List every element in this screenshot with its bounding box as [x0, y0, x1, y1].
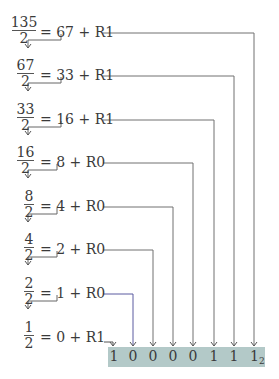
- base-subscript: 2: [259, 356, 265, 366]
- fraction-denominator: 2: [25, 293, 34, 306]
- fraction-numerator: 16: [17, 146, 35, 159]
- quotient-remainder: = 8 + R0: [40, 155, 105, 169]
- quotient-remainder: = 1 + R0: [40, 286, 105, 300]
- fraction-denominator: 2: [21, 75, 30, 88]
- result-bit: 1: [107, 349, 121, 363]
- fraction-numerator: 33: [17, 103, 35, 116]
- result-bit: 0: [166, 349, 180, 363]
- bit-value: 1: [230, 348, 239, 364]
- result-bit: 0: [126, 349, 140, 363]
- quotient-remainder: = 33 + R1: [40, 68, 114, 82]
- fraction-denominator: 2: [21, 162, 30, 175]
- fraction: 1352: [12, 16, 36, 45]
- fraction-denominator: 2: [25, 249, 34, 262]
- fraction: 332: [17, 103, 34, 132]
- fraction-numerator: 67: [17, 59, 35, 72]
- quotient-remainder: = 16 + R1: [40, 112, 114, 126]
- result-bit: 12: [250, 349, 270, 368]
- bit-value: 1: [210, 348, 219, 364]
- result-bit: 1: [227, 349, 241, 363]
- fraction: 42: [24, 233, 34, 262]
- bit-value: 0: [189, 348, 198, 364]
- quotient-remainder: = 4 + R0: [40, 199, 105, 213]
- quotient-remainder: = 0 + R1: [40, 330, 105, 344]
- fraction-denominator: 2: [25, 206, 34, 219]
- fraction: 672: [17, 59, 34, 88]
- quotient-remainder: = 67 + R1: [40, 25, 114, 39]
- bit-value: 1: [110, 348, 119, 364]
- fraction: 22: [24, 277, 34, 306]
- bit-value: 0: [169, 348, 178, 364]
- fraction-numerator: 135: [11, 16, 38, 29]
- result-bit: 1: [207, 349, 221, 363]
- fraction-numerator: 2: [25, 277, 34, 290]
- fraction: 162: [17, 146, 34, 175]
- binary-conversion-diagram: 1352= 67 + R1672= 33 + R1332= 16 + R1162…: [0, 0, 279, 379]
- fraction-numerator: 1: [25, 321, 34, 334]
- bit-value: 0: [149, 348, 158, 364]
- bit-value: 0: [129, 348, 138, 364]
- bit-value: 1: [250, 348, 259, 364]
- result-bit: 0: [146, 349, 160, 363]
- fraction-denominator: 2: [25, 337, 34, 350]
- quotient-remainder: = 2 + R0: [40, 242, 105, 256]
- fraction-numerator: 4: [25, 233, 34, 246]
- fraction-denominator: 2: [20, 32, 29, 45]
- fraction: 82: [24, 190, 34, 219]
- fraction: 12: [24, 321, 34, 350]
- fraction-numerator: 8: [25, 190, 34, 203]
- connector-lines: [0, 0, 279, 379]
- result-bit: 0: [186, 349, 200, 363]
- fraction-denominator: 2: [21, 119, 30, 132]
